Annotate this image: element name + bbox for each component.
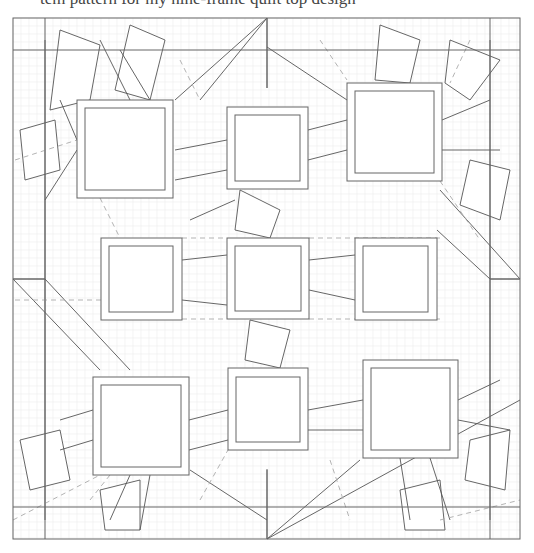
- crease-line: [175, 140, 227, 150]
- flap-polygon: [465, 430, 510, 490]
- flap-polygon: [20, 120, 60, 180]
- flap-polygon: [235, 190, 280, 238]
- frame-bottom-right: [363, 360, 458, 458]
- frame-inner-window: [355, 91, 434, 173]
- flap-polygon: [460, 160, 510, 220]
- diagram-canvas: tem pattern for my nine-frame quilt top …: [0, 0, 534, 553]
- dashed-line: [440, 500, 520, 520]
- frame-inner-window: [235, 115, 300, 181]
- frame-middle-left: [101, 238, 182, 320]
- crease-line: [60, 410, 93, 420]
- frame-inner-window: [236, 377, 300, 442]
- flap-polygon: [100, 480, 140, 530]
- quilt-pattern-diagram: [0, 0, 534, 553]
- frame-inner-window: [101, 385, 181, 467]
- frame-inner-window: [109, 246, 173, 312]
- flap-polygon: [245, 320, 290, 368]
- crease-line: [458, 420, 510, 430]
- frame-middle-right: [355, 238, 437, 320]
- photo-frames: [77, 83, 458, 475]
- crease-line: [308, 400, 363, 410]
- crease-line: [189, 440, 228, 450]
- crease-line: [309, 290, 355, 300]
- crease-line: [442, 100, 490, 120]
- frame-bottom-middle: [228, 368, 308, 450]
- frame-top-left: [77, 100, 173, 198]
- frame-inner-window: [371, 368, 450, 450]
- crease-line: [267, 460, 360, 539]
- frame-inner-window: [363, 246, 428, 312]
- frame-center: [227, 238, 309, 319]
- flap-polygon: [400, 480, 445, 530]
- frame-bottom-left: [93, 377, 189, 475]
- crease-line: [458, 380, 500, 400]
- frame-inner-window: [235, 246, 301, 311]
- frame-top-middle: [227, 107, 308, 189]
- flap-polygon: [115, 25, 165, 100]
- crease-line: [190, 470, 267, 520]
- crease-line: [309, 255, 355, 260]
- crease-line: [60, 440, 93, 450]
- crease-line: [267, 47, 347, 100]
- crease-line: [200, 18, 267, 100]
- crease-line: [175, 170, 227, 180]
- frame-top-right: [347, 83, 442, 181]
- frame-inner-window: [85, 108, 165, 190]
- dashed-line: [200, 450, 228, 500]
- crease-line: [189, 410, 228, 420]
